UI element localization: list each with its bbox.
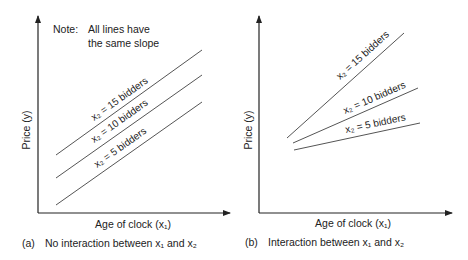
y-axis-label-a: Price (y) — [20, 110, 32, 149]
note-label: Note: — [53, 23, 78, 35]
line-label-5-b: x₂ = 5 bidders — [344, 111, 406, 135]
x-axis-label-a: Age of clock (x₁) — [95, 218, 171, 230]
panel-b: Price (y) x₂ = 15 bidders x₂ = 10 bidder… — [242, 16, 452, 248]
note-text-2: the same slope — [88, 37, 159, 49]
panel-a: Note: All lines have the same slope Pric… — [20, 16, 230, 249]
x-axis-label-b: Age of clock (x₁) — [315, 217, 391, 229]
interaction-diagram: Note: All lines have the same slope Pric… — [0, 0, 468, 260]
note-text-1: All lines have — [88, 23, 150, 35]
caption-b: Interaction between x₁ and x₂ — [268, 236, 404, 248]
y-axis-label-b: Price (y) — [242, 110, 254, 149]
line-label-15-b: x₂ = 15 bidders — [334, 28, 391, 81]
caption-prefix-a: (a) — [22, 237, 35, 249]
caption-prefix-b: (b) — [245, 236, 258, 248]
caption-a: No interaction between x₁ and x₂ — [45, 237, 197, 249]
